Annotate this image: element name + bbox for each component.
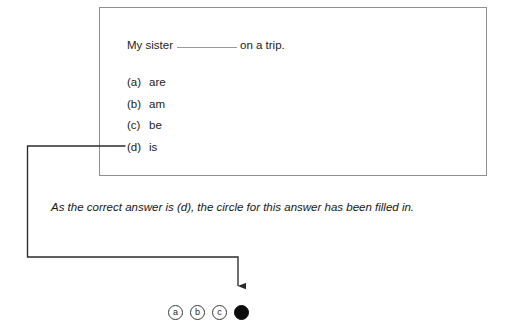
option-text-b: am — [149, 94, 165, 116]
option-letter-a: (a) — [127, 72, 149, 94]
option-row-a[interactable]: (a)are — [127, 72, 166, 94]
question-stem: My sisteron a trip. — [127, 38, 285, 52]
option-row-b[interactable]: (b)am — [127, 94, 166, 116]
answer-bubble-c[interactable]: c — [212, 305, 227, 320]
option-letter-c: (c) — [127, 115, 149, 137]
answer-bubble-b[interactable]: b — [190, 305, 205, 320]
answer-bubble-a[interactable]: a — [168, 305, 183, 320]
answer-bubble-row: a b c d — [168, 304, 249, 321]
stem-before-blank: My sister — [127, 39, 173, 51]
option-row-c[interactable]: (c)be — [127, 115, 166, 137]
explanation-caption: As the correct answer is (d), the circle… — [51, 200, 501, 215]
question-box: My sisteron a trip. (a)are (b)am (c)be (… — [99, 7, 487, 176]
stem-after-blank: on a trip. — [240, 39, 285, 51]
document-canvas: My sisteron a trip. (a)are (b)am (c)be (… — [0, 0, 524, 335]
option-text-c: be — [149, 115, 162, 137]
answer-bubble-d-filled[interactable]: d — [234, 305, 249, 320]
option-letter-b: (b) — [127, 94, 149, 116]
option-letter-d: (d) — [127, 137, 149, 159]
answer-blank-rule — [177, 47, 237, 48]
options-list: (a)are (b)am (c)be (d)is — [127, 72, 166, 158]
option-text-a: are — [149, 72, 166, 94]
option-row-d[interactable]: (d)is — [127, 137, 166, 159]
option-text-d: is — [149, 137, 157, 159]
